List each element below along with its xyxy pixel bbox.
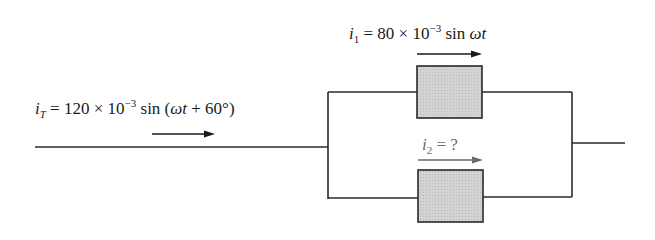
circuit-diagram xyxy=(0,0,655,240)
power-exponent: −3 xyxy=(429,22,441,34)
unknown-value: ? xyxy=(450,135,458,154)
equals-sign: = xyxy=(436,135,446,154)
power-base: 10 xyxy=(108,99,125,118)
times-sign: × xyxy=(399,24,409,43)
equals-sign: = xyxy=(363,24,373,43)
branch1-current-subscript: 1 xyxy=(354,33,360,45)
branch2-current-subscript: 2 xyxy=(427,144,433,156)
branch1-current-arrow-icon xyxy=(417,51,482,58)
total-current-arrow-icon xyxy=(152,131,215,138)
equals-sign: = xyxy=(50,99,60,118)
omega-t: ωt xyxy=(469,24,486,43)
close-paren: ) xyxy=(229,99,235,118)
omega-t: ωt xyxy=(170,99,187,118)
branch2-current-arrow-icon xyxy=(418,157,483,164)
branch1-current-coefficient: 80 xyxy=(377,24,394,43)
times-sign: × xyxy=(94,99,104,118)
plus-sign: + xyxy=(191,99,201,118)
power-base: 10 xyxy=(412,24,429,43)
total-current-label: iT = 120 × 10−3 sin (ωt + 60°) xyxy=(35,98,235,120)
branch2-current-label: i2 = ? xyxy=(422,136,458,156)
total-current-subscript: T xyxy=(40,108,46,120)
sine-function: sin xyxy=(141,99,161,118)
branch1-element xyxy=(417,66,482,118)
branch1-current-label: i1 = 80 × 10−3 sin ωt xyxy=(349,23,486,45)
branch2-element xyxy=(418,170,483,222)
phase-angle: 60° xyxy=(205,99,229,118)
power-exponent: −3 xyxy=(125,97,137,109)
sine-function: sin xyxy=(445,24,465,43)
total-current-coefficient: 120 xyxy=(64,99,90,118)
